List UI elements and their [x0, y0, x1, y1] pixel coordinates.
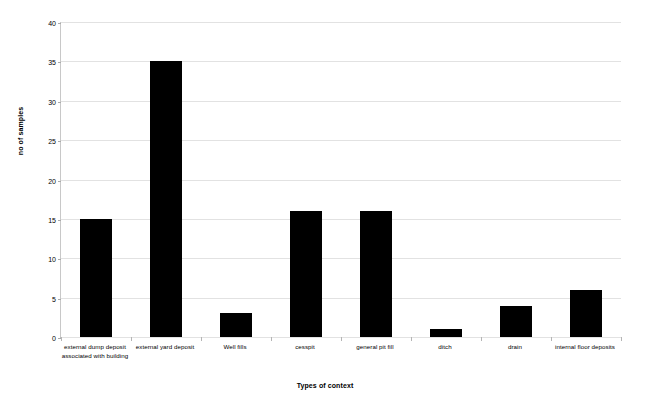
- x-axis-tick-mark: [341, 337, 342, 341]
- x-axis-tick-label: external yard deposit: [130, 343, 200, 352]
- x-axis-tick-label: cesspit: [270, 343, 340, 352]
- x-axis-tick-mark: [481, 337, 482, 341]
- y-axis-tick-label: 15: [48, 216, 56, 223]
- x-axis-tick-label: drain: [480, 343, 550, 352]
- bar-chart: no of samples 0510152025303540 external …: [0, 0, 650, 408]
- bar-slot: [481, 22, 551, 337]
- x-axis-tick-label: Well fills: [200, 343, 270, 352]
- y-axis-tick-label: 30: [48, 98, 56, 105]
- x-axis-title: Types of context: [0, 382, 650, 389]
- x-axis-tick-mark: [61, 337, 62, 341]
- y-axis-tick-label: 25: [48, 138, 56, 145]
- bar-slot: [131, 22, 201, 337]
- bar-slot: [271, 22, 341, 337]
- bar-slot: [341, 22, 411, 337]
- plot-area: 0510152025303540: [60, 22, 621, 338]
- x-axis-tick-mark: [131, 337, 132, 341]
- y-axis-tick-label: 0: [52, 335, 56, 342]
- x-axis-tick-mark: [271, 337, 272, 341]
- x-axis-tick-mark: [621, 337, 622, 341]
- bar[interactable]: [430, 329, 462, 337]
- x-axis-tick-label: internal floor deposits: [550, 343, 620, 352]
- bar-slot: [551, 22, 621, 337]
- bars-layer: [61, 22, 621, 337]
- y-axis-tick-label: 5: [52, 295, 56, 302]
- y-axis-tick-label: 10: [48, 256, 56, 263]
- bar[interactable]: [290, 211, 322, 337]
- x-axis-tick-mark: [201, 337, 202, 341]
- bar[interactable]: [570, 290, 602, 337]
- bar[interactable]: [500, 306, 532, 338]
- y-axis-tick-label: 40: [48, 20, 56, 27]
- bar[interactable]: [360, 211, 392, 337]
- bar[interactable]: [150, 61, 182, 337]
- bar[interactable]: [220, 313, 252, 337]
- bar-slot: [61, 22, 131, 337]
- x-axis-tick-label: ditch: [410, 343, 480, 352]
- x-axis-tick-labels: external dump deposit associated with bu…: [60, 343, 620, 377]
- bar-slot: [201, 22, 271, 337]
- y-axis-title: no of samples: [17, 86, 24, 176]
- y-axis-tick-label: 35: [48, 59, 56, 66]
- x-axis-tick-mark: [411, 337, 412, 341]
- bar-slot: [411, 22, 481, 337]
- bar[interactable]: [80, 219, 112, 337]
- y-axis-tick-label: 20: [48, 177, 56, 184]
- x-axis-tick-label: external dump deposit associated with bu…: [60, 343, 130, 360]
- x-axis-tick-label: general pit fill: [340, 343, 410, 352]
- x-axis-tick-mark: [551, 337, 552, 341]
